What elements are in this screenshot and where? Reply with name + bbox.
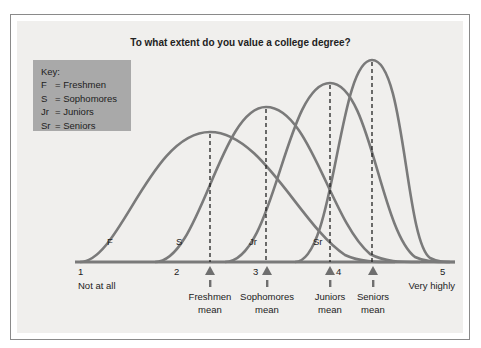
curve-sophomores — [155, 107, 420, 262]
tick-3: 3 — [253, 266, 258, 277]
mean-label-seniors: Seniors mean — [347, 290, 399, 316]
tick-4: 4 — [336, 266, 341, 277]
tick-2: 2 — [174, 266, 179, 277]
axis-high-label: Very highly — [395, 279, 455, 292]
axis-low-label: Not at all — [78, 279, 116, 292]
mean-arrow-seniors — [368, 266, 378, 287]
curve-label-sr: Sr — [313, 236, 323, 247]
mean-label-sophomores: Sophomores mean — [228, 290, 306, 316]
curve-label-jr: Jr — [249, 236, 257, 247]
mean-arrow-freshmen — [205, 266, 215, 287]
tick-1: 1 — [78, 266, 83, 277]
mean-arrow-juniors — [325, 266, 335, 287]
mean-arrow-sophomores — [262, 266, 272, 287]
curve-label-f: F — [107, 236, 113, 247]
curve-freshmen — [80, 132, 395, 262]
tick-5: 5 — [440, 266, 445, 277]
curve-juniors — [225, 83, 450, 262]
curve-label-s: S — [176, 236, 182, 247]
